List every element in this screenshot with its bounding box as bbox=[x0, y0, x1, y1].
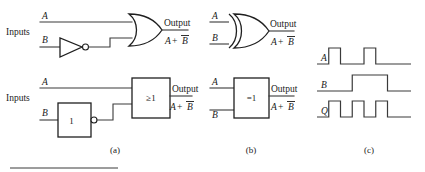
waveform-label-b: B bbox=[321, 80, 327, 90]
panel-a-bottom-output-label: Output bbox=[172, 84, 199, 94]
figure-logic-gates: Inputs A B Output A + B bbox=[0, 0, 425, 172]
panel-a-bottom-inputs-label: Inputs bbox=[6, 93, 30, 103]
panel-b-top-circuit: A B Output A + B bbox=[210, 11, 297, 48]
panel-b-bottom-label-a: A bbox=[211, 77, 218, 87]
panel-a-bottom-label-b: B bbox=[42, 108, 48, 118]
panel-a-bottom-output-expression: A + B bbox=[169, 102, 194, 113]
iec-or-box-label: ≥1 bbox=[146, 93, 155, 103]
iec-not-box-icon bbox=[58, 103, 91, 137]
panel-caption-a: (a) bbox=[110, 145, 120, 155]
panel-b-top-expr-b: B bbox=[288, 37, 294, 47]
figure-canvas: Inputs A B Output A + B bbox=[0, 0, 425, 172]
iec-xor-box-label: =1 bbox=[247, 93, 257, 103]
panel-a-top-circuit: Inputs A B Output A + B bbox=[6, 11, 191, 57]
panel-a-top-output-expression: A + B bbox=[164, 36, 189, 47]
panel-b-bottom-expr-op: + bbox=[278, 102, 283, 112]
waveform-trace-a bbox=[317, 48, 411, 64]
or-gate-icon bbox=[129, 14, 162, 46]
panel-b-bottom-label-b: B bbox=[212, 110, 218, 120]
panel-b-bottom-output-label: Output bbox=[271, 84, 298, 94]
inverting-bubble-icon bbox=[83, 44, 89, 50]
waveform-label-q: Q bbox=[321, 106, 328, 116]
panel-b-bottom-expr-b: B bbox=[288, 102, 294, 112]
xor-gate-icon bbox=[234, 14, 269, 48]
panel-caption-c: (c) bbox=[364, 145, 374, 155]
panel-a-bottom-expr-op: + bbox=[177, 102, 182, 112]
panel-a-top-label-b: B bbox=[42, 35, 48, 45]
xor-gate-extra-arc-icon bbox=[229, 14, 237, 48]
panel-a-top-inputs-label: Inputs bbox=[6, 27, 30, 37]
panel-b-top-output-expression: A + B bbox=[270, 37, 295, 48]
panel-a-top-expr-a: A bbox=[164, 36, 171, 46]
panel-a-bottom-wire-not-to-or bbox=[97, 104, 132, 120]
panel-a-bottom-expr-a: A bbox=[169, 102, 176, 112]
not-gate-icon bbox=[60, 38, 82, 57]
iec-not-box-label: 1 bbox=[69, 116, 74, 126]
panel-b-top-label-b: B bbox=[212, 33, 218, 43]
panel-a-top-label-a: A bbox=[41, 11, 48, 21]
waveform-trace-b bbox=[317, 75, 411, 91]
panel-a-top-wire-inverter-to-or bbox=[89, 38, 133, 47]
iec-inverting-bubble-icon bbox=[91, 117, 97, 123]
panel-a-bottom-expr-b: B bbox=[187, 102, 193, 112]
panel-c-timing-diagram: A B Q bbox=[317, 48, 411, 117]
panel-b-top-label-a: A bbox=[211, 11, 218, 21]
panel-b-bottom-expr-a: A bbox=[270, 102, 277, 112]
panel-a-bottom-circuit: Inputs A B 1 ≥1 Output A + B bbox=[6, 77, 199, 137]
panel-caption-b: (b) bbox=[246, 145, 257, 155]
panel-b-top-expr-op: + bbox=[278, 37, 283, 47]
panel-a-top-expr-op: + bbox=[172, 36, 177, 46]
panel-b-bottom-output-expression: A + B bbox=[270, 102, 295, 113]
panel-b-top-output-label: Output bbox=[270, 19, 297, 29]
panel-a-bottom-label-a: A bbox=[41, 77, 48, 87]
waveform-label-a: A bbox=[320, 53, 327, 63]
panel-b-top-expr-a: A bbox=[270, 37, 277, 47]
panel-a-top-expr-b: B bbox=[182, 36, 188, 46]
panel-a-top-output-label: Output bbox=[164, 18, 191, 28]
waveform-trace-q bbox=[317, 101, 411, 117]
panel-b-bottom-circuit: A B =1 Output A + B bbox=[210, 77, 298, 120]
